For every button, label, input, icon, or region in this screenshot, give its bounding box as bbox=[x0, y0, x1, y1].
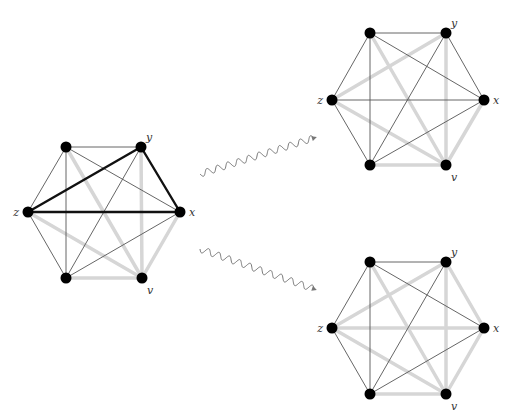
node-label-y: y bbox=[145, 131, 153, 144]
node-label-x: x bbox=[493, 94, 500, 107]
node-X bbox=[479, 323, 490, 334]
node-label-x: x bbox=[189, 206, 196, 219]
node-label-v: v bbox=[451, 400, 458, 413]
wavy-line bbox=[200, 136, 314, 177]
edge-gray-Y-X bbox=[446, 262, 484, 328]
node-label-z: z bbox=[316, 322, 323, 335]
node-B bbox=[365, 389, 376, 400]
source-graph: yxvz bbox=[12, 131, 196, 297]
result-graph-bottom: yxvz bbox=[316, 246, 500, 413]
node-V bbox=[441, 160, 452, 171]
edge-thin-Y-X bbox=[446, 33, 484, 100]
node-Y bbox=[441, 257, 452, 268]
node-A bbox=[61, 142, 72, 153]
diagram-canvas: yxvzyxvzyxvz bbox=[0, 0, 511, 419]
wavy-arrow-down bbox=[200, 249, 317, 291]
edge-gray-X-V bbox=[446, 100, 484, 165]
node-label-x: x bbox=[493, 322, 500, 335]
node-B bbox=[365, 160, 376, 171]
node-V bbox=[137, 273, 148, 284]
edge-black-Y-X bbox=[141, 147, 180, 212]
node-Y bbox=[441, 28, 452, 39]
node-label-y: y bbox=[450, 246, 458, 259]
arrowhead-icon bbox=[311, 136, 317, 141]
node-Z bbox=[327, 323, 338, 334]
node-label-y: y bbox=[450, 17, 458, 30]
node-label-z: z bbox=[12, 206, 19, 219]
node-X bbox=[479, 95, 490, 106]
node-V bbox=[441, 389, 452, 400]
edge-black-Z-Y bbox=[28, 147, 141, 212]
node-B bbox=[61, 273, 72, 284]
node-label-v: v bbox=[451, 171, 458, 184]
node-label-v: v bbox=[147, 284, 154, 297]
node-Z bbox=[327, 95, 338, 106]
wavy-line bbox=[200, 249, 314, 290]
node-A bbox=[365, 28, 376, 39]
graphs-layer: yxvzyxvzyxvz bbox=[12, 17, 500, 413]
node-X bbox=[175, 207, 186, 218]
node-label-z: z bbox=[316, 94, 323, 107]
node-Z bbox=[23, 207, 34, 218]
result-graph-top: yxvz bbox=[316, 17, 500, 184]
node-Y bbox=[136, 142, 147, 153]
edge-gray-X-V bbox=[446, 328, 484, 394]
edge-gray-X-V bbox=[142, 212, 180, 278]
node-A bbox=[365, 257, 376, 268]
arrows-layer bbox=[200, 136, 317, 291]
wavy-arrow-up bbox=[200, 136, 317, 177]
